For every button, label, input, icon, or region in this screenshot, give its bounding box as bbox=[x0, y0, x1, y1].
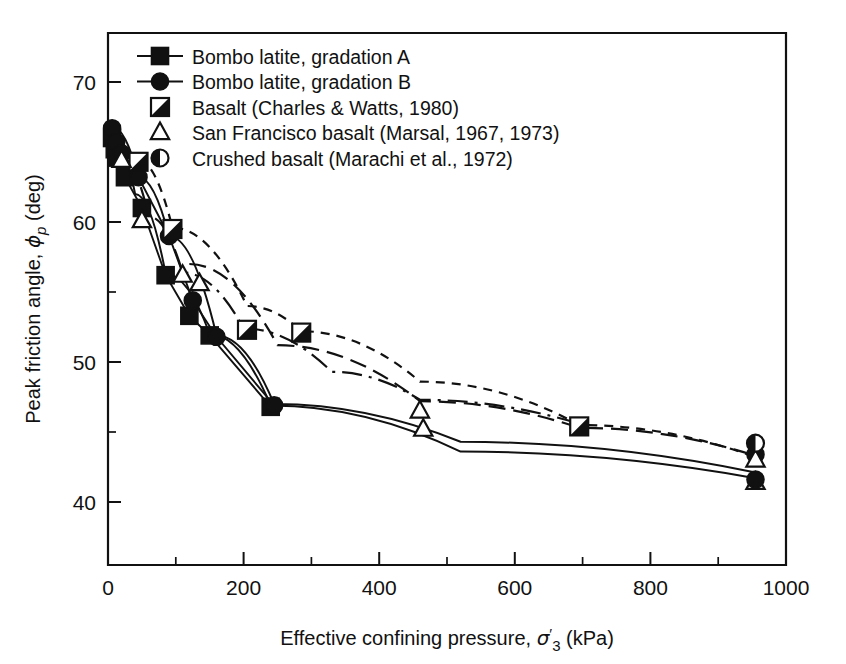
curve-gradation-b bbox=[112, 127, 755, 473]
data-point-2-0 bbox=[130, 153, 148, 171]
data-point-0-5 bbox=[157, 267, 174, 284]
legend-item-label: Bombo latite, gradation B bbox=[192, 71, 411, 93]
legend-item: Basalt (Charles & Watts, 1980) bbox=[151, 97, 459, 119]
y-tick-label: 40 bbox=[73, 491, 96, 514]
legend-item: Crushed basalt (Marachi et al., 1972) bbox=[152, 148, 513, 170]
data-point-1-7 bbox=[266, 397, 283, 414]
legend: Bombo latite, gradation ABombo latite, g… bbox=[137, 46, 559, 170]
x-tick-label: 1000 bbox=[763, 576, 810, 599]
x-axis-ticks bbox=[108, 552, 786, 565]
figure-root: 02004006008001000 40506070 Effective con… bbox=[0, 0, 846, 664]
x-axis-title: Effective confining pressure, σ′3 (kPa) bbox=[280, 625, 614, 654]
y-tick-label: 70 bbox=[73, 71, 96, 94]
x-axis-tick-labels: 02004006008001000 bbox=[102, 576, 809, 599]
data-point-3-5 bbox=[414, 419, 432, 435]
data-point-2-1 bbox=[163, 220, 181, 238]
y-tick-label: 50 bbox=[73, 351, 96, 374]
data-point-extra-0 bbox=[747, 471, 764, 488]
legend-marker-half-left-circle bbox=[152, 150, 169, 167]
data-point-3-4 bbox=[411, 401, 429, 417]
curve-crushed-basalt bbox=[189, 264, 755, 456]
data-point-2-2 bbox=[238, 321, 256, 339]
data-point-3-2 bbox=[173, 265, 191, 281]
legend-marker-filled-circle bbox=[152, 73, 169, 90]
chart-canvas: 02004006008001000 40506070 Effective con… bbox=[0, 0, 846, 664]
x-tick-label: 400 bbox=[362, 576, 397, 599]
legend-marker-open-triangle bbox=[151, 123, 169, 139]
data-point-2-4 bbox=[570, 417, 588, 435]
x-tick-label: 600 bbox=[497, 576, 532, 599]
trend-curves bbox=[112, 127, 755, 478]
x-tick-label: 200 bbox=[226, 576, 261, 599]
svg-text:Effective confining pressure,: Effective confining pressure, σ′3 (kPa) bbox=[280, 625, 614, 654]
data-point-0-6 bbox=[181, 307, 198, 324]
y-axis-tick-labels: 40506070 bbox=[73, 71, 96, 514]
y-axis-title: Peak friction angle, ϕp (deg) bbox=[21, 174, 49, 423]
data-point-2-3 bbox=[292, 324, 310, 342]
legend-item-label: San Francisco basalt (Marsal, 1967, 1973… bbox=[192, 122, 559, 144]
legend-item: San Francisco basalt (Marsal, 1967, 1973… bbox=[151, 122, 560, 144]
legend-marker-half-diag-square bbox=[151, 98, 169, 116]
data-point-4-0 bbox=[747, 435, 764, 452]
data-point-1-5 bbox=[184, 292, 201, 309]
legend-item-label: Crushed basalt (Marachi et al., 1972) bbox=[192, 148, 513, 170]
legend-item: Bombo latite, gradation A bbox=[137, 46, 410, 68]
legend-item-label: Bombo latite, gradation A bbox=[192, 46, 410, 68]
y-tick-label: 60 bbox=[73, 211, 96, 234]
svg-text:Peak friction angle, ϕp (deg): Peak friction angle, ϕp (deg) bbox=[21, 174, 49, 423]
legend-item: Bombo latite, gradation B bbox=[137, 71, 411, 93]
x-tick-label: 0 bbox=[102, 576, 114, 599]
legend-marker-filled-square bbox=[152, 48, 169, 65]
legend-item-label: Basalt (Charles & Watts, 1980) bbox=[192, 97, 459, 119]
x-tick-label: 800 bbox=[633, 576, 668, 599]
data-point-1-6 bbox=[208, 328, 225, 345]
